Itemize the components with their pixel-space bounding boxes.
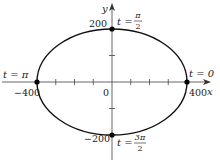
x-label-neg-400: −400 bbox=[14, 87, 40, 98]
origin-label: 0 bbox=[103, 87, 109, 98]
x-label-400: 400 bbox=[189, 87, 207, 98]
parametric-ellipse-diagram: y x 0 −400 400 200 −200 t = 0 t = π t = … bbox=[0, 0, 220, 163]
point-t-0-marker bbox=[184, 79, 189, 84]
svg-text:t =: t = bbox=[117, 137, 133, 148]
label-t-0: t = 0 bbox=[189, 68, 215, 79]
point-t-pi-marker bbox=[34, 79, 39, 84]
point-t-3pi-over-2-marker bbox=[109, 132, 114, 137]
svg-text:t =: t = bbox=[117, 16, 133, 27]
svg-text:2: 2 bbox=[135, 22, 140, 31]
point-t-pi-over-2-marker bbox=[109, 26, 114, 31]
label-t-pi: t = π bbox=[3, 69, 29, 80]
label-t-pi-over-2: t = π 2 bbox=[117, 11, 142, 31]
x-axis bbox=[2, 79, 211, 85]
y-label-neg-200: −200 bbox=[84, 133, 110, 144]
svg-text:π: π bbox=[134, 11, 141, 20]
y-label-200: 200 bbox=[89, 18, 107, 29]
y-axis-label: y bbox=[101, 3, 108, 14]
label-t-3pi-over-2: t = 3π 2 bbox=[117, 133, 146, 153]
svg-text:2: 2 bbox=[137, 144, 142, 153]
svg-text:3π: 3π bbox=[135, 133, 146, 142]
x-axis-label: x bbox=[207, 86, 213, 97]
